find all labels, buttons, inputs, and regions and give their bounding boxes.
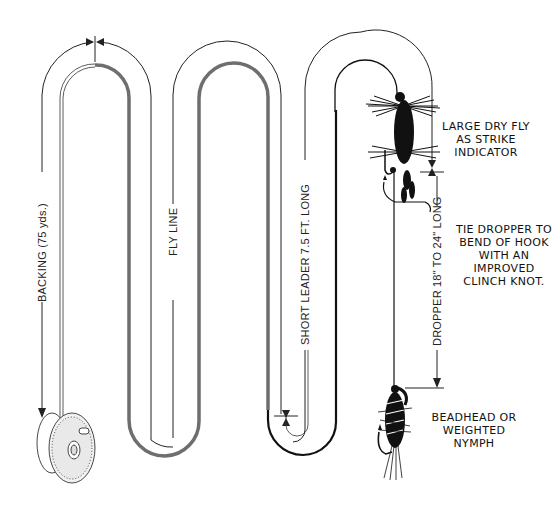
reel-icon xyxy=(37,413,95,483)
callout-line: BEADHEAD OR xyxy=(422,411,526,424)
callout-line: IMPROVED xyxy=(452,262,556,275)
dry-fly-callout: LARGE DRY FLY AS STRIKE INDICATOR xyxy=(438,120,534,159)
dry-fly-icon xyxy=(366,92,440,212)
fly-line-label: FLY LINE xyxy=(167,208,179,256)
leader-label: SHORT LEADER 7.5 FT. LONG xyxy=(299,184,311,345)
nymph-icon xyxy=(378,385,412,480)
callout-line: WEIGHTED xyxy=(422,424,526,437)
callout-line: LARGE DRY FLY xyxy=(438,120,534,133)
dropper-label: DROPPER 18" TO 24" LONG xyxy=(431,196,443,346)
callout-line: WITH AN xyxy=(452,249,556,262)
backing-label: BACKING (75 yds.) xyxy=(36,203,48,302)
knot-callout: TIE DROPPER TO BEND OF HOOK WITH AN IMPR… xyxy=(452,223,556,288)
backing-line xyxy=(60,64,95,420)
callout-line: BEND OF HOOK xyxy=(452,236,556,249)
nymph-callout: BEADHEAD OR WEIGHTED NYMPH xyxy=(422,411,526,450)
dimension-lines xyxy=(38,30,444,447)
callout-line: AS STRIKE xyxy=(438,133,534,146)
callout-line: INDICATOR xyxy=(438,146,534,159)
fly-line xyxy=(95,63,268,456)
callout-line: CLINCH KNOT. xyxy=(452,275,556,288)
callout-line: NYMPH xyxy=(422,437,526,450)
callout-line: TIE DROPPER TO xyxy=(452,223,556,236)
